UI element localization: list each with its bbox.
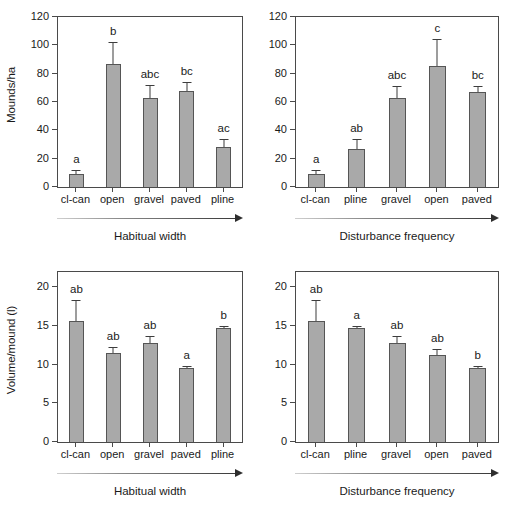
x-tick-label: paved [171, 193, 201, 205]
bar-rect [216, 147, 231, 187]
y-tick-mark [290, 186, 295, 187]
x-tick-label: cl-can [61, 193, 90, 205]
x-tick-mark [477, 187, 478, 192]
y-tick-mark [290, 158, 295, 159]
significance-label: b [110, 25, 116, 37]
y-tick-label: 120 [0, 10, 49, 22]
x-tick-mark [112, 442, 113, 447]
y-tick-mark [290, 441, 295, 442]
y-tick-label: 0 [0, 435, 49, 447]
x-tick-label: cl-can [61, 448, 90, 460]
y-tick-label: 20 [256, 152, 287, 164]
error-bar-cap [182, 366, 191, 367]
error-bar-cap [473, 366, 482, 367]
error-bar-cap [146, 85, 155, 86]
x-tick-mark [436, 442, 437, 447]
y-tick-mark [290, 325, 295, 326]
significance-label: ab [350, 122, 363, 134]
y-tick-label: 40 [256, 123, 287, 135]
y-tick-mark [52, 44, 57, 45]
bar-item [69, 272, 84, 442]
bar-rect [348, 328, 365, 442]
error-bar [223, 139, 224, 148]
bar-rect [469, 92, 486, 187]
bar-item [216, 17, 231, 187]
direction-arrow [295, 467, 499, 481]
y-tick-mark [52, 186, 57, 187]
x-tick-label: open [100, 193, 124, 205]
significance-label: ab [144, 319, 157, 331]
bar-item [429, 272, 446, 442]
bar-item [143, 272, 158, 442]
significance-label: a [313, 153, 319, 165]
plot-area: aababccbc [295, 16, 499, 188]
bar-group: ababcbcac [58, 17, 242, 187]
bar-rect [69, 174, 84, 187]
x-tick-mark [223, 187, 224, 192]
x-tick-label: open [424, 448, 448, 460]
bar-rect [179, 91, 194, 187]
y-tick-mark [290, 16, 295, 17]
significance-label: abc [388, 69, 407, 81]
y-tick-mark [52, 325, 57, 326]
arrow-line-icon [295, 473, 492, 474]
error-bar-cap [109, 42, 118, 43]
significance-label: ab [107, 330, 120, 342]
x-tick-mark [396, 442, 397, 447]
figure-four-panel-bar-charts: Mounds/ha ababcbcac 020406080100120 cl-c… [0, 0, 512, 509]
significance-label: a [353, 309, 359, 321]
y-tick-label: 100 [0, 38, 49, 50]
bar-rect [389, 343, 406, 442]
bar-rect [106, 353, 121, 442]
y-tick-mark [52, 101, 57, 102]
error-bar-cap [433, 349, 442, 350]
bar-item [179, 17, 194, 187]
panel-volume-disturbance-frequency: abaababb 05101520 cl-canplinegravelopenp… [256, 255, 512, 509]
x-tick-mark [112, 187, 113, 192]
arrow-head-icon [491, 214, 499, 222]
arrow-line-icon [295, 218, 492, 219]
significance-label: b [475, 349, 481, 361]
error-bar [76, 300, 77, 322]
bar-rect [469, 368, 486, 442]
y-tick-label: 0 [256, 435, 287, 447]
error-bar-cap [473, 86, 482, 87]
x-tick-mark [315, 187, 316, 192]
error-bar [356, 139, 357, 149]
y-tick-mark [290, 101, 295, 102]
y-tick-mark [52, 16, 57, 17]
error-bar-cap [352, 139, 361, 140]
y-tick-label: 15 [0, 319, 49, 331]
significance-label: ac [218, 122, 230, 134]
arrow-head-icon [235, 469, 243, 477]
bar-item [308, 272, 325, 442]
bar-item [348, 272, 365, 442]
error-bar [150, 336, 151, 343]
bar-rect [308, 174, 325, 187]
bar-rect [179, 368, 194, 442]
bar-rect [389, 98, 406, 187]
x-tick-mark [149, 442, 150, 447]
bar-rect [106, 64, 121, 187]
bar-rect [429, 66, 446, 187]
panel-mounds-habitual-width: Mounds/ha ababcbcac 020406080100120 cl-c… [0, 0, 256, 254]
y-tick-mark [290, 129, 295, 130]
error-bar-cap [182, 82, 191, 83]
x-tick-label: paved [171, 448, 201, 460]
x-tick-mark [75, 442, 76, 447]
bar-rect [69, 321, 84, 442]
arrow-line-icon [57, 473, 236, 474]
significance-label: bc [472, 69, 484, 81]
significance-label: ab [70, 283, 83, 295]
y-tick-mark [290, 364, 295, 365]
x-axis-title: Disturbance frequency [339, 230, 454, 242]
direction-arrow [57, 467, 243, 481]
significance-label: ab [431, 332, 444, 344]
x-tick-label: gravel [134, 193, 164, 205]
bar-item [389, 272, 406, 442]
error-bar [397, 86, 398, 97]
significance-label: b [220, 309, 226, 321]
bar-item [143, 17, 158, 187]
error-bar-cap [393, 336, 402, 337]
x-axis-title: Habitual width [114, 485, 186, 497]
